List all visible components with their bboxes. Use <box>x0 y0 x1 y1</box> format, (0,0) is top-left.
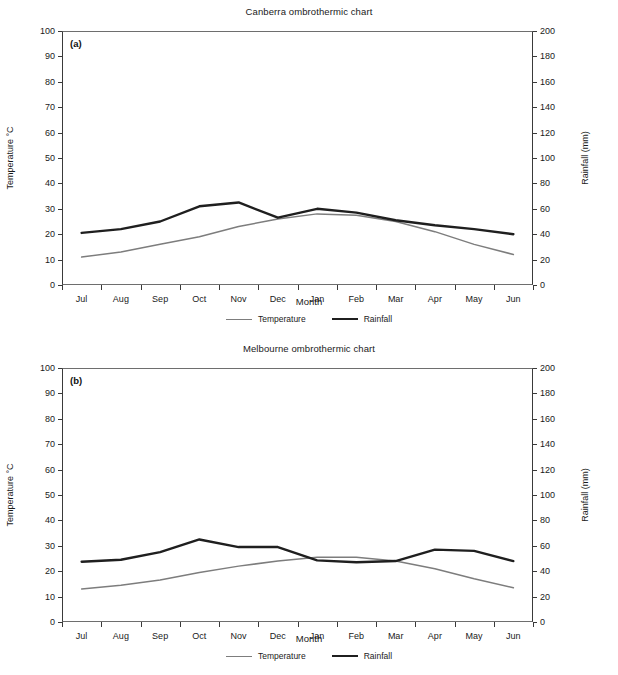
y-axis-tick-left: 100 <box>40 26 62 36</box>
legend-label: Temperature <box>258 314 306 324</box>
legend-label: Rainfall <box>364 314 392 324</box>
legend-entry-rainfall[interactable]: Rainfall <box>332 314 392 324</box>
y-axis-tick-right: 160 <box>533 414 555 424</box>
x-axis-tick-mark <box>101 285 102 290</box>
plot-area-canberra: (a) Temperature °C Rainfall (mm) 0102030… <box>62 31 533 285</box>
y-axis-tick-right: 40 <box>533 566 550 576</box>
y-axis-tick-right: 0 <box>533 617 545 627</box>
chart-title: Melbourne ombrothermic chart <box>0 343 618 354</box>
x-axis-tick-mark <box>533 285 534 290</box>
y-axis-title-left: Temperature °C <box>5 98 15 218</box>
series-canvas <box>62 368 533 622</box>
y-axis-tick-left: 70 <box>45 102 62 112</box>
x-axis-tick-mark <box>376 622 377 627</box>
y-axis-tick-left: 70 <box>45 439 62 449</box>
y-axis-tick-left: 40 <box>45 515 62 525</box>
x-axis-tick-mark <box>494 622 495 627</box>
plot-area-melbourne: (b) Temperature °C Rainfall (mm) 0102030… <box>62 368 533 622</box>
x-axis-tick-mark <box>101 622 102 627</box>
y-axis-tick-left: 10 <box>45 255 62 265</box>
y-axis-tick-right: 60 <box>533 541 550 551</box>
y-axis-tick-left: 80 <box>45 77 62 87</box>
y-axis-tick-right: 180 <box>533 51 555 61</box>
y-axis-tick-right: 40 <box>533 229 550 239</box>
series-line-rainfall <box>82 202 514 234</box>
x-axis-tick-mark <box>180 622 181 627</box>
x-axis-tick-mark <box>415 285 416 290</box>
y-axis-tick-left: 90 <box>45 388 62 398</box>
x-axis-tick-mark <box>219 285 220 290</box>
x-axis-tick-mark <box>376 285 377 290</box>
legend-label: Rainfall <box>364 651 392 661</box>
chart-title: Canberra ombrothermic chart <box>0 6 618 17</box>
y-axis-tick-left: 0 <box>50 280 62 290</box>
y-axis-title-right: Rainfall (mm) <box>580 435 590 555</box>
y-axis-tick-right: 80 <box>533 515 550 525</box>
x-axis-title: Month <box>0 296 618 307</box>
x-axis-tick-mark <box>180 285 181 290</box>
y-axis-tick-right: 100 <box>533 153 555 163</box>
y-axis-tick-right: 100 <box>533 490 555 500</box>
y-axis-tick-right: 80 <box>533 178 550 188</box>
legend-entry-temperature[interactable]: Temperature <box>226 651 306 661</box>
ombrothermic-charts-page: Canberra ombrothermic chart (a) Temperat… <box>0 0 618 675</box>
y-axis-tick-left: 60 <box>45 128 62 138</box>
y-axis-tick-left: 30 <box>45 204 62 214</box>
y-axis-tick-left: 80 <box>45 414 62 424</box>
y-axis-tick-left: 90 <box>45 51 62 61</box>
x-axis-tick-mark <box>62 285 63 290</box>
x-axis-tick-mark <box>219 622 220 627</box>
x-axis-tick-mark <box>337 285 338 290</box>
series-line-temperature <box>82 557 514 589</box>
y-axis-tick-right: 120 <box>533 465 555 475</box>
y-axis-tick-left: 30 <box>45 541 62 551</box>
y-axis-tick-left: 20 <box>45 566 62 576</box>
legend-label: Temperature <box>258 651 306 661</box>
legend: TemperatureRainfall <box>0 314 618 324</box>
x-axis-tick-mark <box>337 622 338 627</box>
x-axis-title: Month <box>0 633 618 644</box>
legend-entry-temperature[interactable]: Temperature <box>226 314 306 324</box>
y-axis-title-right: Rainfall (mm) <box>580 98 590 218</box>
y-axis-tick-right: 20 <box>533 255 550 265</box>
legend-swatch-icon <box>332 318 358 320</box>
y-axis-tick-left: 0 <box>50 617 62 627</box>
y-axis-tick-left: 100 <box>40 363 62 373</box>
y-axis-tick-right: 200 <box>533 26 555 36</box>
y-axis-title-left: Temperature °C <box>5 435 15 555</box>
series-canvas <box>62 31 533 285</box>
x-axis-tick-mark <box>455 622 456 627</box>
y-axis-tick-right: 140 <box>533 102 555 112</box>
series-line-temperature <box>82 214 514 257</box>
y-axis-tick-left: 50 <box>45 490 62 500</box>
y-axis-tick-left: 50 <box>45 153 62 163</box>
y-axis-tick-right: 140 <box>533 439 555 449</box>
y-axis-tick-right: 0 <box>533 280 545 290</box>
y-axis-tick-left: 40 <box>45 178 62 188</box>
y-axis-tick-left: 60 <box>45 465 62 475</box>
legend-swatch-icon <box>226 319 252 320</box>
x-axis-tick-mark <box>141 622 142 627</box>
x-axis-tick-mark <box>455 285 456 290</box>
x-axis-tick-mark <box>141 285 142 290</box>
legend-entry-rainfall[interactable]: Rainfall <box>332 651 392 661</box>
x-axis-tick-mark <box>494 285 495 290</box>
y-axis-tick-right: 180 <box>533 388 555 398</box>
x-axis-tick-mark <box>62 622 63 627</box>
legend: TemperatureRainfall <box>0 651 618 661</box>
x-axis-tick-mark <box>533 622 534 627</box>
y-axis-tick-left: 10 <box>45 592 62 602</box>
x-axis-tick-mark <box>258 622 259 627</box>
y-axis-tick-left: 20 <box>45 229 62 239</box>
chart-block-canberra: Canberra ombrothermic chart (a) Temperat… <box>0 0 618 337</box>
y-axis-tick-right: 20 <box>533 592 550 602</box>
y-axis-tick-right: 120 <box>533 128 555 138</box>
y-axis-tick-right: 200 <box>533 363 555 373</box>
legend-swatch-icon <box>332 655 358 657</box>
legend-swatch-icon <box>226 656 252 657</box>
x-axis-tick-mark <box>258 285 259 290</box>
y-axis-tick-right: 160 <box>533 77 555 87</box>
x-axis-tick-mark <box>415 622 416 627</box>
x-axis-tick-mark <box>298 285 299 290</box>
x-axis-tick-mark <box>298 622 299 627</box>
